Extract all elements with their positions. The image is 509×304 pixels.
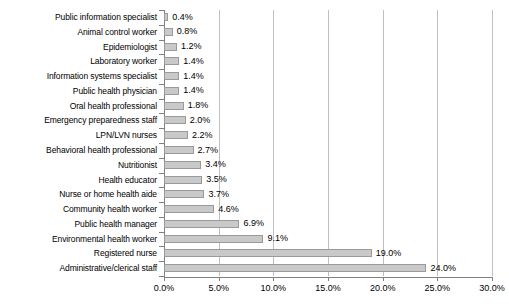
category-label-row: LPN/LVN nurses — [0, 128, 161, 143]
x-axis-tick — [383, 277, 384, 281]
bar-row: 3.7% — [164, 187, 492, 202]
category-label-row: Registered nurse — [0, 246, 161, 261]
y-axis-tick — [159, 173, 164, 174]
category-label-row: Laboratory worker — [0, 54, 161, 69]
category-label: Community health worker — [63, 205, 157, 214]
category-label: Public information specialist — [55, 13, 157, 22]
x-axis-tick — [219, 277, 220, 281]
bar-chart: Public information specialistAnimal cont… — [0, 0, 509, 304]
bar-row: 4.6% — [164, 202, 492, 217]
category-label-row: Public health physician — [0, 84, 161, 99]
bar-row: 3.4% — [164, 158, 492, 173]
category-label: Health educator — [98, 176, 157, 185]
x-axis-tick-label: 15.0% — [315, 283, 341, 294]
category-label: Environmental health worker — [52, 235, 157, 244]
bar-value-label: 1.2% — [181, 41, 202, 52]
bar — [164, 220, 239, 228]
category-label-row: Public health manager — [0, 217, 161, 232]
x-axis-tick-label: 5.0% — [208, 283, 229, 294]
y-axis-tick — [159, 202, 164, 203]
y-axis-tick — [159, 217, 164, 218]
category-label-row: Administrative/clerical staff — [0, 261, 161, 276]
bar — [164, 264, 426, 272]
bar-value-label: 2.7% — [198, 145, 219, 156]
category-label-row: Public information specialist — [0, 10, 161, 25]
x-axis-tick-label: 0.0% — [154, 283, 175, 294]
bar — [164, 131, 188, 139]
category-label: Emergency preparedness staff — [44, 116, 157, 125]
y-axis-tick — [159, 40, 164, 41]
x-axis-tick-label: 30.0% — [479, 283, 505, 294]
category-label-row: Information systems specialist — [0, 69, 161, 84]
bar-row: 2.7% — [164, 143, 492, 158]
y-axis-tick — [159, 246, 164, 247]
bar — [164, 57, 179, 65]
y-axis-tick — [159, 158, 164, 159]
bar-value-label: 1.4% — [183, 71, 204, 82]
category-label: Information systems specialist — [47, 72, 157, 81]
x-axis-tick — [273, 277, 274, 281]
bar — [164, 43, 177, 51]
y-axis-tick — [159, 69, 164, 70]
bar-row: 1.2% — [164, 40, 492, 55]
category-label: Behavioral health professional — [46, 146, 157, 155]
y-axis-tick — [159, 84, 164, 85]
x-axis-tick-label: 25.0% — [425, 283, 451, 294]
y-axis-tick — [159, 99, 164, 100]
y-axis-tick — [159, 25, 164, 26]
bar — [164, 102, 184, 110]
y-axis-tick — [159, 128, 164, 129]
category-label-row: Epidemiologist — [0, 40, 161, 55]
bar-value-label: 19.0% — [376, 248, 402, 259]
y-axis-tick — [159, 187, 164, 188]
category-label-row: Community health worker — [0, 202, 161, 217]
bar — [164, 235, 263, 243]
category-label-row: Animal control worker — [0, 25, 161, 40]
bar-row: 2.2% — [164, 128, 492, 143]
plot-area: 0.4%0.8%1.2%1.4%1.4%1.4%1.8%2.0%2.2%2.7%… — [164, 10, 492, 276]
bar-value-label: 1.8% — [188, 100, 209, 111]
category-label-row: Nurse or home health aide — [0, 187, 161, 202]
bar-value-label: 9.1% — [267, 233, 288, 244]
bar-row: 3.5% — [164, 173, 492, 188]
x-axis-tick — [492, 277, 493, 281]
bar — [164, 249, 372, 257]
category-label: Laboratory worker — [90, 57, 157, 66]
bar-row: 19.0% — [164, 246, 492, 261]
category-axis: Public information specialistAnimal cont… — [0, 10, 161, 276]
gridline — [492, 10, 493, 276]
category-label: Public health manager — [75, 220, 157, 229]
bar-value-label: 4.6% — [218, 204, 239, 215]
category-label: LPN/LVN nurses — [96, 131, 157, 140]
bar-value-label: 3.4% — [205, 159, 226, 170]
bar — [164, 87, 179, 95]
bar-value-label: 2.0% — [190, 115, 211, 126]
bar-value-label: 1.4% — [183, 56, 204, 67]
bar-row: 1.8% — [164, 99, 492, 114]
x-axis-tick-label: 20.0% — [370, 283, 396, 294]
bar-value-label: 3.7% — [208, 189, 229, 200]
y-axis-tick — [159, 261, 164, 262]
category-label: Nurse or home health aide — [59, 190, 157, 199]
bar-value-label: 3.5% — [206, 174, 227, 185]
y-axis-tick — [159, 54, 164, 55]
bar-row: 6.9% — [164, 217, 492, 232]
bar — [164, 72, 179, 80]
y-axis-tick — [159, 143, 164, 144]
bar-row: 0.4% — [164, 10, 492, 25]
bar — [164, 176, 202, 184]
bar — [164, 146, 194, 154]
category-label-row: Oral health professional — [0, 99, 161, 114]
bar-row: 0.8% — [164, 25, 492, 40]
bar-value-label: 0.4% — [172, 12, 193, 23]
category-label-row: Health educator — [0, 172, 161, 187]
category-label: Nutritionist — [118, 161, 157, 170]
x-axis-tick — [164, 277, 165, 281]
bar — [164, 116, 186, 124]
x-axis-tick — [437, 277, 438, 281]
bar-value-label: 1.4% — [183, 85, 204, 96]
category-label: Registered nurse — [94, 249, 157, 258]
x-axis-tick — [328, 277, 329, 281]
category-label: Administrative/clerical staff — [59, 264, 157, 273]
bar-row: 1.4% — [164, 54, 492, 69]
